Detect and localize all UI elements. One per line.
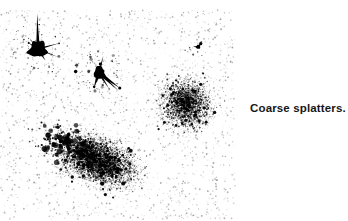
splatter-image-canvas: Coarse splatters.: [0, 0, 348, 221]
caption-label: Coarse splatters.: [250, 103, 346, 115]
